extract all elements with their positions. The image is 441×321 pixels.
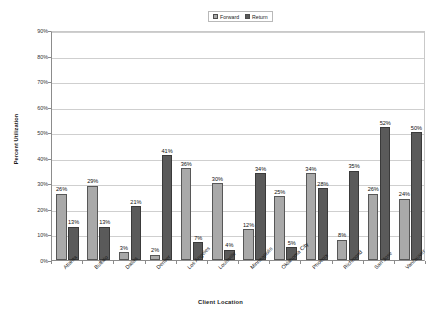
- bar-return[interactable]: [411, 132, 422, 260]
- bar-return[interactable]: [380, 127, 391, 260]
- x-tick-mark: [269, 261, 270, 264]
- x-tick-mark: [51, 261, 52, 264]
- legend-item: Forward: [213, 14, 239, 20]
- bar-forward[interactable]: [399, 199, 410, 260]
- y-tick-label: 10%: [22, 232, 48, 238]
- y-axis-title: Percent Utilization: [13, 99, 19, 179]
- bar-value-label: 7%: [189, 235, 208, 242]
- bar-value-label: 13%: [95, 219, 114, 226]
- bar-forward[interactable]: [274, 196, 285, 260]
- x-tick-mark: [238, 261, 239, 264]
- bar-value-label: 26%: [52, 186, 71, 193]
- bar-group: 12%34%: [239, 32, 270, 260]
- bar-group: 26%52%: [364, 32, 395, 260]
- bar-return[interactable]: [255, 173, 266, 260]
- bar-forward[interactable]: [368, 194, 379, 260]
- y-tick-label: 40%: [22, 156, 48, 162]
- x-tick-mark: [425, 261, 426, 264]
- bar-group: 2%41%: [146, 32, 177, 260]
- bar-group: 36%7%: [177, 32, 208, 260]
- x-tick-mark: [300, 261, 301, 264]
- x-axis-title: Client Location: [0, 299, 441, 305]
- y-tick-label: 80%: [22, 54, 48, 60]
- bar-group: 29%13%: [83, 32, 114, 260]
- bar-group: 26%13%: [52, 32, 83, 260]
- x-tick-mark: [145, 261, 146, 264]
- bar-forward[interactable]: [150, 255, 161, 260]
- y-tick-label: 70%: [22, 79, 48, 85]
- bar-forward[interactable]: [119, 252, 130, 260]
- bar-value-label: 30%: [208, 176, 227, 183]
- bar-group: 34%28%: [301, 32, 332, 260]
- bar-forward[interactable]: [337, 240, 348, 260]
- bar-group: 25%5%: [270, 32, 301, 260]
- bar-value-label: 34%: [302, 166, 321, 173]
- legend-item-label: Return: [252, 14, 268, 20]
- bar-value-label: 36%: [177, 161, 196, 168]
- bar-chart: ForwardReturn Percent Utilization 90%80%…: [0, 0, 441, 321]
- legend-item-label: Forward: [220, 14, 239, 20]
- x-tick-mark: [176, 261, 177, 264]
- bar-value-label: 35%: [345, 163, 364, 170]
- y-tick-label: 0%: [22, 258, 48, 264]
- x-tick-mark: [113, 261, 114, 264]
- y-tick-label: 90%: [22, 28, 48, 34]
- chart-legend: ForwardReturn: [208, 11, 273, 22]
- bar-value-label: 5%: [282, 240, 301, 247]
- x-tick-mark: [363, 261, 364, 264]
- bar-value-label: 41%: [158, 148, 177, 155]
- bar-group: 8%35%: [333, 32, 364, 260]
- y-tick-label: 30%: [22, 181, 48, 187]
- legend-swatch-icon: [245, 14, 250, 19]
- bar-return[interactable]: [162, 155, 173, 260]
- legend-item: Return: [245, 14, 268, 20]
- y-tick-label: 20%: [22, 207, 48, 213]
- x-tick-mark: [394, 261, 395, 264]
- bar-return[interactable]: [318, 188, 329, 260]
- bar-forward[interactable]: [243, 229, 254, 260]
- bar-value-label: 21%: [127, 199, 146, 206]
- bar-forward[interactable]: [181, 168, 192, 260]
- bar-group: 3%21%: [114, 32, 145, 260]
- bar-value-label: 28%: [314, 181, 333, 188]
- legend-swatch-icon: [213, 14, 218, 19]
- y-tick-label: 60%: [22, 105, 48, 111]
- bar-value-label: 34%: [251, 166, 270, 173]
- bar-value-label: 4%: [220, 242, 239, 249]
- y-tick-label: 50%: [22, 130, 48, 136]
- bar-return[interactable]: [349, 171, 360, 260]
- bar-group: 24%50%: [395, 32, 426, 260]
- bar-value-label: 13%: [64, 219, 83, 226]
- x-tick-mark: [332, 261, 333, 264]
- bar-group: 30%4%: [208, 32, 239, 260]
- x-tick-mark: [207, 261, 208, 264]
- bar-value-label: 50%: [407, 125, 426, 132]
- bar-value-label: 29%: [83, 178, 102, 185]
- bar-value-label: 25%: [270, 189, 289, 196]
- bar-return[interactable]: [131, 206, 142, 260]
- x-tick-mark: [82, 261, 83, 264]
- plot-area: 26%13%29%13%3%21%2%41%36%7%30%4%12%34%25…: [51, 31, 425, 261]
- bar-forward[interactable]: [56, 194, 67, 260]
- bar-value-label: 52%: [376, 120, 395, 127]
